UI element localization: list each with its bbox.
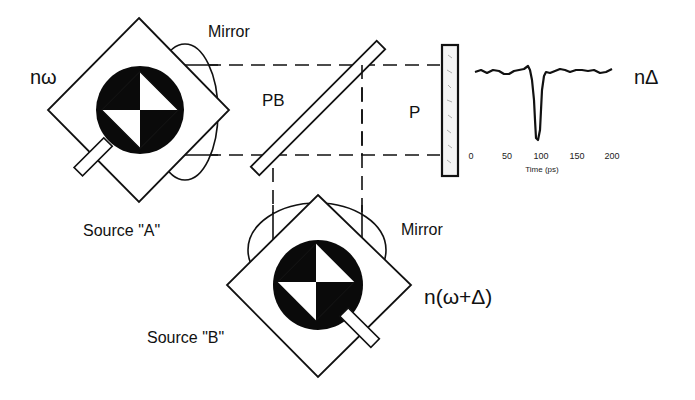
x-axis-label: Time (ps) bbox=[525, 165, 559, 174]
detector-plate bbox=[442, 45, 458, 176]
label-beat-frequency: nΔ bbox=[634, 66, 658, 88]
signal-trace bbox=[475, 66, 612, 140]
label-source-b-frequency: n(ω+Δ) bbox=[424, 285, 492, 308]
source-a bbox=[48, 18, 229, 202]
optical-setup-diagram: 0 50 100 150 200 Time (ps) nω Mirror PB … bbox=[0, 0, 695, 400]
signal-chart: 0 50 100 150 200 Time (ps) bbox=[468, 66, 619, 174]
x-tick-0: 0 bbox=[468, 151, 473, 161]
x-tick-100: 100 bbox=[533, 151, 548, 161]
label-mirror-top: Mirror bbox=[208, 23, 250, 40]
label-detector: P bbox=[409, 103, 420, 122]
x-tick-50: 50 bbox=[502, 151, 512, 161]
label-source-a: Source "A" bbox=[83, 222, 160, 239]
x-tick-200: 200 bbox=[604, 151, 619, 161]
label-beam-splitter: PB bbox=[262, 91, 285, 110]
label-source-a-frequency: nω bbox=[30, 66, 57, 88]
source-b bbox=[227, 195, 411, 377]
x-tick-150: 150 bbox=[569, 151, 584, 161]
label-mirror-bottom: Mirror bbox=[401, 221, 443, 238]
label-source-b: Source "B" bbox=[147, 329, 224, 346]
